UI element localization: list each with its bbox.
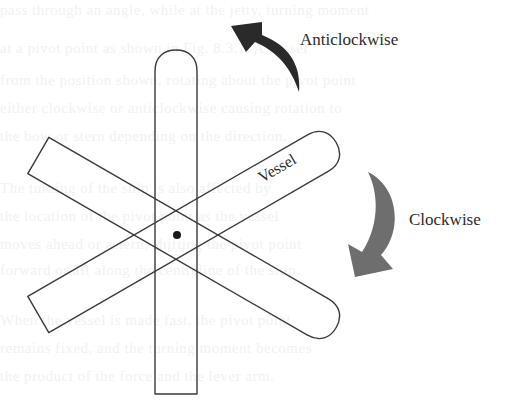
anticlockwise-label: Anticlockwise (300, 30, 398, 50)
clockwise-arrow-icon (348, 172, 395, 277)
vessel-outline-rotated-down (28, 137, 347, 345)
clockwise-label: Clockwise (409, 210, 481, 230)
pivot-point-dot (173, 231, 181, 239)
anticlockwise-arrow-icon (231, 22, 299, 92)
vessel-outline-vertical (155, 50, 197, 394)
vessel-label: Vessel (255, 150, 299, 185)
vessel-outline-rotated-up (28, 124, 347, 332)
